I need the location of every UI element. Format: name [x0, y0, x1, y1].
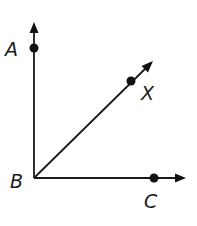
point-x: [127, 77, 136, 86]
angle-diagram: A X B C: [0, 0, 197, 226]
point-c: [150, 174, 159, 183]
arrowhead-up-icon: [30, 22, 39, 33]
label-x: X: [140, 82, 155, 104]
ray-bc: [34, 174, 186, 183]
point-a: [30, 44, 39, 53]
label-c: C: [144, 190, 158, 212]
ray-bx: [34, 61, 153, 178]
label-b: B: [10, 170, 23, 192]
label-a: A: [3, 38, 18, 60]
arrowhead-right-icon: [175, 174, 186, 183]
